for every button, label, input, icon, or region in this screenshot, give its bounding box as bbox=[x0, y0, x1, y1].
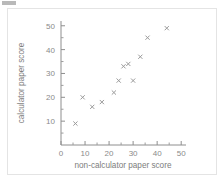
y-tick-label-10: 10 bbox=[46, 117, 55, 126]
x-axis-label: non-calculator paper score bbox=[75, 161, 172, 170]
corner-artifact-mark bbox=[2, 1, 16, 5]
y-axis-label: calculator paper score bbox=[17, 42, 26, 123]
data-point-markers bbox=[73, 26, 169, 126]
data-point bbox=[100, 100, 104, 104]
scatter-plot-figure: 01020304050 1020304050 non-calculator pa… bbox=[7, 8, 217, 175]
x-tick-label-40: 40 bbox=[153, 149, 162, 158]
x-tick-label-10: 10 bbox=[81, 149, 90, 158]
data-point bbox=[112, 90, 116, 94]
x-tick-label-50: 50 bbox=[177, 149, 186, 158]
data-point bbox=[117, 79, 121, 83]
x-tick-label-20: 20 bbox=[105, 149, 114, 158]
y-axis-ticks bbox=[61, 26, 65, 133]
y-tick-label-30: 30 bbox=[46, 69, 55, 78]
y-tick-label-40: 40 bbox=[46, 46, 55, 55]
data-point bbox=[131, 79, 135, 83]
data-point bbox=[121, 64, 125, 68]
data-point bbox=[138, 55, 142, 59]
x-axis-ticks bbox=[61, 141, 181, 145]
data-point bbox=[90, 105, 94, 109]
y-axis-tick-labels: 1020304050 bbox=[46, 22, 55, 126]
x-tick-label-30: 30 bbox=[129, 149, 138, 158]
y-tick-label-50: 50 bbox=[46, 22, 55, 31]
x-tick-label-0: 0 bbox=[59, 149, 64, 158]
data-point bbox=[81, 95, 85, 99]
data-point bbox=[145, 36, 149, 40]
data-point bbox=[165, 26, 169, 30]
x-axis-tick-labels: 01020304050 bbox=[59, 149, 186, 158]
data-point bbox=[73, 121, 77, 125]
scatter-plot-canvas: 01020304050 1020304050 non-calculator pa… bbox=[8, 9, 216, 174]
data-point bbox=[126, 62, 130, 66]
y-tick-label-20: 20 bbox=[46, 93, 55, 102]
